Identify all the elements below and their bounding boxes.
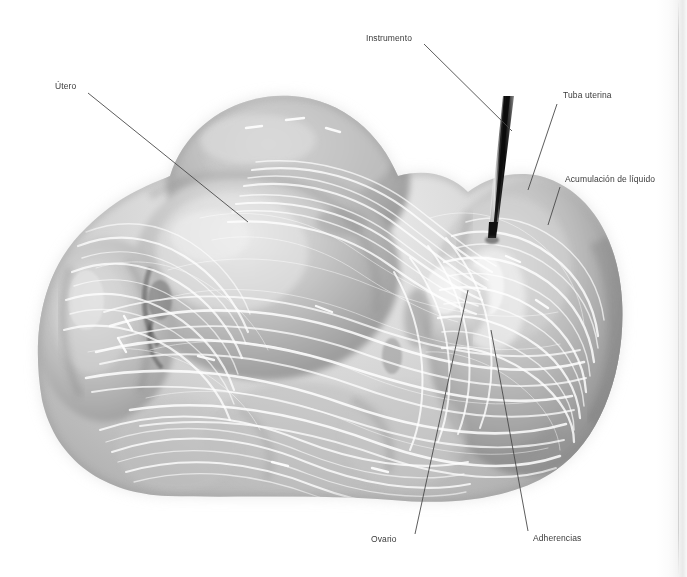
label-acumulacion: Acumulación de líquido: [565, 175, 655, 184]
label-instrumento: Instrumento: [366, 34, 412, 43]
label-tuba-uterina: Tuba uterina: [563, 91, 612, 100]
label-ovario: Ovario: [371, 535, 397, 544]
tissue-mass: [0, 0, 687, 577]
label-utero: Útero: [55, 82, 76, 91]
pelvic-adhesions-illustration: [0, 0, 687, 577]
page-edge-rule: [678, 0, 679, 577]
leader-instrumento: [424, 44, 512, 131]
label-adherencias: Adherencias: [533, 534, 581, 543]
page-edge-artifact: [657, 0, 687, 577]
